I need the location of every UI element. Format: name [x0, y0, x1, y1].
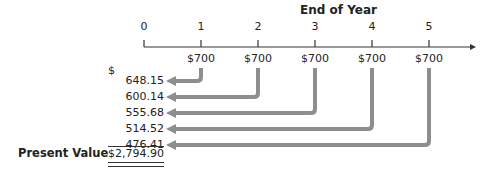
- period-label-1: 1: [191, 20, 211, 33]
- present-value-label: Present Value: [18, 146, 108, 160]
- period-label-3: 3: [305, 20, 325, 33]
- present-value-3: 555.68: [104, 106, 164, 119]
- cash-flow-1: $700: [181, 52, 221, 65]
- cash-flow-5: $700: [409, 52, 449, 65]
- axis-title: End of Year: [300, 3, 377, 17]
- cash-flow-2: $700: [238, 52, 278, 65]
- period-label-5: 5: [419, 20, 439, 33]
- cash-flow-4: $700: [352, 52, 392, 65]
- period-label-0: 0: [134, 20, 154, 33]
- present-value-4: 514.52: [104, 122, 164, 135]
- present-value-2: 600.14: [104, 90, 164, 103]
- period-label-4: 4: [362, 20, 382, 33]
- period-label-2: 2: [248, 20, 268, 33]
- double-underline: [108, 162, 164, 167]
- present-value-total: $2,794.90: [108, 146, 164, 160]
- present-value-1: 648.15: [104, 74, 164, 87]
- cash-flow-3: $700: [295, 52, 335, 65]
